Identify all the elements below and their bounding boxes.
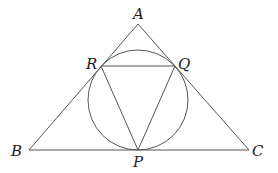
geometry-figure: A B C P Q R: [0, 0, 278, 173]
label-b: B: [10, 142, 22, 160]
diagram-canvas: A B C P Q R: [0, 0, 278, 173]
label-c: C: [252, 142, 264, 160]
segment-pq: [138, 66, 175, 150]
label-q: Q: [178, 55, 190, 73]
label-r: R: [85, 55, 97, 73]
segment-ca: [138, 24, 249, 150]
segment-rp: [101, 66, 138, 150]
label-p: P: [132, 153, 144, 171]
segment-ab: [29, 24, 138, 150]
label-a: A: [131, 5, 144, 23]
